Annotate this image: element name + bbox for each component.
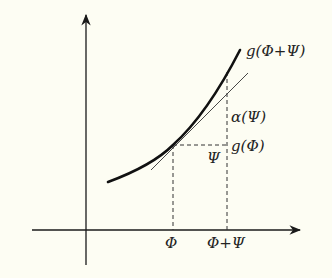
label-alpha-psi: α(Ψ) (231, 110, 266, 125)
label-psi-step: Ψ (207, 151, 220, 166)
label-g-phi-plus-psi: g(Φ+Ψ) (246, 44, 305, 59)
label-x-phi: Φ (165, 236, 177, 251)
curve-g (108, 50, 240, 182)
label-x-phi-plus-psi: Φ+Ψ (207, 236, 245, 251)
label-g-phi: g(Φ) (231, 139, 265, 154)
